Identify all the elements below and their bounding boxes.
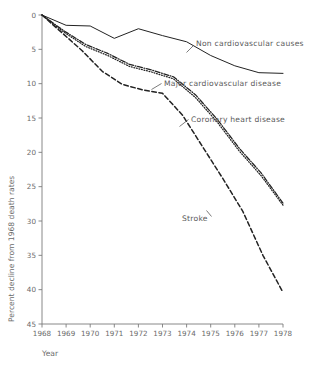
y-axis-title: Percent decline from 1968 death rates bbox=[7, 176, 16, 322]
x-tick-label: 1971 bbox=[105, 329, 123, 338]
series-label-non-cardiovascular-causes: Non cardiovascular causes bbox=[196, 39, 304, 48]
x-axis-title: Year bbox=[41, 349, 59, 358]
x-tick-label: 1968 bbox=[33, 329, 52, 338]
x-tick-label: 1974 bbox=[177, 329, 196, 338]
y-tick-label: 10 bbox=[27, 79, 37, 88]
y-tick-label: 5 bbox=[31, 45, 36, 54]
leader-line-coronary-heart-disease bbox=[180, 120, 189, 127]
series-line-stroke bbox=[42, 15, 283, 292]
x-tick-label: 1973 bbox=[153, 329, 171, 338]
series-label-coronary-heart-disease: Coronary heart disease bbox=[191, 115, 285, 124]
x-tick-label: 1970 bbox=[81, 329, 100, 338]
x-tick-label: 1972 bbox=[129, 329, 147, 338]
series-label-stroke: Stroke bbox=[182, 214, 208, 223]
chart-container: 051015202530354045 196819691970197119721… bbox=[0, 0, 310, 367]
x-tick-label: 1975 bbox=[202, 329, 220, 338]
y-tick-label: 20 bbox=[27, 148, 37, 157]
leader-line-major-cardiovascular-disease bbox=[152, 84, 162, 90]
y-tick-label: 15 bbox=[27, 114, 36, 123]
x-axis-ticks: 1968196919701971197219731974197519761977… bbox=[33, 324, 293, 338]
series-label-major-cardiovascular-disease: Major cardiovascular disease bbox=[164, 79, 281, 88]
y-tick-label: 40 bbox=[27, 285, 37, 294]
x-tick-label: 1976 bbox=[226, 329, 245, 338]
line-chart: 051015202530354045 196819691970197119721… bbox=[0, 0, 310, 367]
y-tick-label: 0 bbox=[31, 11, 36, 20]
y-tick-label: 25 bbox=[27, 182, 36, 191]
leader-line-non-cardiovascular-causes bbox=[187, 46, 194, 53]
x-tick-label: 1978 bbox=[274, 329, 293, 338]
x-tick-label: 1969 bbox=[57, 329, 76, 338]
y-tick-label: 45 bbox=[27, 320, 36, 329]
x-tick-label: 1977 bbox=[250, 329, 268, 338]
y-tick-label: 30 bbox=[27, 217, 37, 226]
y-axis-ticks: 051015202530354045 bbox=[27, 11, 42, 329]
y-tick-label: 35 bbox=[27, 251, 36, 260]
